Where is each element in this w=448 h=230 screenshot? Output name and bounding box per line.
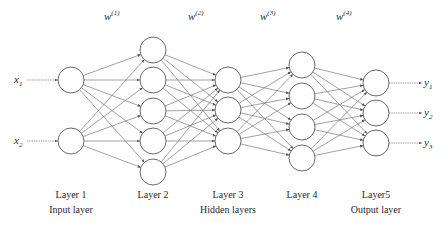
output-label: y3 <box>423 136 433 151</box>
weight-edge <box>315 146 364 156</box>
weight-label: w(3) <box>260 9 276 22</box>
neuron-layer-4 <box>289 52 315 78</box>
weight-edge <box>239 103 291 134</box>
neuron-layer-2 <box>140 159 166 185</box>
input-label: x1 <box>13 73 22 88</box>
weight-edge <box>161 90 220 162</box>
layer-role-label: Output layer <box>351 204 402 215</box>
weight-edge <box>83 54 141 75</box>
weight-label: w(4) <box>336 9 352 22</box>
weight-label: w(1) <box>104 9 120 22</box>
layer-name-label: Layer 3 <box>213 189 244 200</box>
layer-role-label: Hidden layers <box>200 204 256 215</box>
weight-edge <box>311 74 367 133</box>
layer-name-label: Layer 1 <box>56 189 87 200</box>
weight-edge <box>83 115 141 136</box>
neuron-layer-1 <box>58 128 84 154</box>
weight-edge <box>311 92 367 148</box>
neuron-layer-2 <box>140 67 166 93</box>
weight-edge <box>80 60 145 132</box>
neuron-layer-4 <box>289 83 315 109</box>
neuron-layer-5 <box>363 70 389 96</box>
layer-role-label: Input layer <box>49 204 93 215</box>
neuron-layer-4 <box>289 114 315 140</box>
neuron-layer-2 <box>140 98 166 124</box>
neuron-layer-3 <box>215 128 241 154</box>
neuron-layer-2 <box>140 128 166 154</box>
weight-edge <box>241 144 290 155</box>
neuron-layer-5 <box>363 130 389 156</box>
weight-edge <box>315 130 364 141</box>
weight-edge <box>237 89 293 148</box>
layer-name-label: Layer 2 <box>138 189 169 200</box>
input-label: x2 <box>13 134 23 149</box>
layer-name-label: Layer 4 <box>287 189 318 200</box>
weight-edge <box>315 115 363 124</box>
neural-network-diagram: x1x2y1y2y3w(1)w(2)w(3)w(4)Layer 1Input l… <box>0 0 448 230</box>
layer-name-label: Layer5 <box>362 189 390 200</box>
output-label: y1 <box>423 76 432 91</box>
neuron-layer-3 <box>215 67 241 93</box>
neuron-layer-4 <box>289 145 315 171</box>
weight-edge <box>241 83 290 94</box>
weight-edge <box>241 68 290 78</box>
weight-edge <box>313 90 365 121</box>
neuron-layer-3 <box>215 97 241 123</box>
weight-edge <box>165 55 216 75</box>
weight-label: w(2) <box>188 9 204 22</box>
neuron-layer-5 <box>363 100 389 126</box>
neuron-nodes <box>58 37 389 185</box>
output-label: y2 <box>423 106 433 121</box>
weight-edge <box>313 72 365 106</box>
weight-edge <box>165 146 216 167</box>
neuron-layer-2 <box>140 37 166 63</box>
neuron-layer-1 <box>58 67 84 93</box>
